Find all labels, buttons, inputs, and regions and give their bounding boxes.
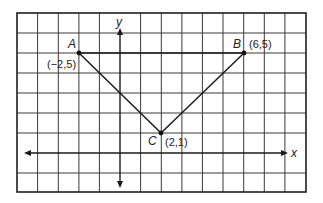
point-b-dot (242, 51, 247, 56)
point-a-label: A (67, 37, 76, 51)
point-c-coordinates: (2,1) (165, 136, 188, 148)
point-a-dot (77, 51, 82, 56)
y-axis-down-arrow-icon (117, 181, 123, 188)
point-a-coordinates: (−2,5) (47, 58, 76, 70)
point-c-dot (159, 131, 164, 136)
y-axis: y (115, 15, 123, 188)
x-axis-left-arrow-icon (24, 150, 31, 156)
point-b-coordinates: (6,5) (249, 38, 272, 50)
point-b-label: B (233, 37, 241, 51)
point-c-label: C (148, 134, 157, 148)
x-axis-label: x (290, 146, 298, 160)
y-axis-label: y (115, 15, 123, 29)
y-axis-up-arrow-icon (117, 28, 123, 35)
coordinate-plane: x y A (−2,5) B (6,5) C (2,1) (0, 0, 323, 203)
